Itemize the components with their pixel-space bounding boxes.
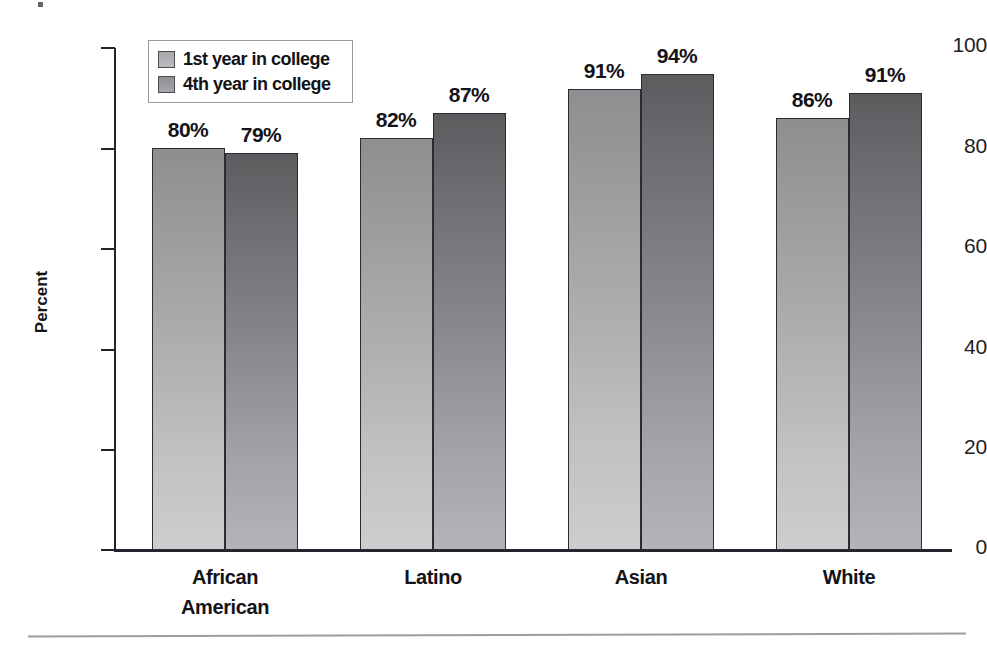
y-tick-mark-80 [101, 148, 115, 150]
y-tick-mark-20 [101, 449, 115, 451]
category-label-line1: White [823, 566, 875, 588]
legend-label-4th-year: 4th year in college [183, 74, 331, 95]
x-axis-category-label-african-american: African American [125, 562, 325, 622]
legend-item-1st-year: 1st year in college [158, 47, 343, 72]
y-tick-mark-0 [101, 549, 115, 551]
y-tick-label-100: 100 [895, 33, 987, 57]
bar-value-label-african-american-4th-year: 79% [216, 123, 306, 147]
y-tick-mark-60 [101, 248, 115, 250]
figure-container: 100 80 60 40 20 0 Percent 80% 79% 82% 87… [0, 0, 987, 650]
bar-value-label-white-1st-year: 86% [767, 88, 857, 112]
y-axis-title: Percent [32, 242, 52, 362]
legend-swatch-icon-1st-year [158, 51, 175, 68]
bar-white-1st-year [776, 118, 849, 550]
category-label-line1: African [192, 566, 258, 588]
x-axis-category-label-latino: Latino [333, 562, 533, 592]
bar-asian-1st-year [568, 89, 641, 550]
bar-latino-4th-year [433, 113, 506, 550]
bar-value-label-latino-1st-year: 82% [351, 108, 441, 132]
legend-swatch-icon-4th-year [158, 76, 175, 93]
legend-label-1st-year: 1st year in college [183, 49, 330, 70]
chart-legend: 1st year in college 4th year in college [148, 40, 353, 103]
x-axis-category-label-white: White [749, 562, 949, 592]
category-label-line2: American [125, 592, 325, 622]
bar-white-4th-year [849, 93, 922, 550]
bar-chart-plot-area: 100 80 60 40 20 0 Percent 80% 79% 82% 87… [0, 0, 987, 650]
y-tick-mark-100 [101, 47, 115, 49]
legend-item-4th-year: 4th year in college [158, 72, 343, 97]
category-label-line1: Asian [615, 566, 667, 588]
bar-value-label-asian-4th-year: 94% [632, 44, 722, 68]
bar-latino-1st-year [360, 138, 433, 550]
bar-african-american-1st-year [152, 148, 225, 550]
bar-asian-4th-year [641, 74, 714, 550]
y-tick-mark-40 [101, 349, 115, 351]
category-label-line1: Latino [404, 566, 462, 588]
bar-value-label-latino-4th-year: 87% [424, 83, 514, 107]
bar-value-label-white-4th-year: 91% [840, 63, 930, 87]
x-axis-category-label-asian: Asian [541, 562, 741, 592]
y-axis-line [114, 48, 116, 551]
bar-african-american-4th-year [225, 153, 298, 550]
